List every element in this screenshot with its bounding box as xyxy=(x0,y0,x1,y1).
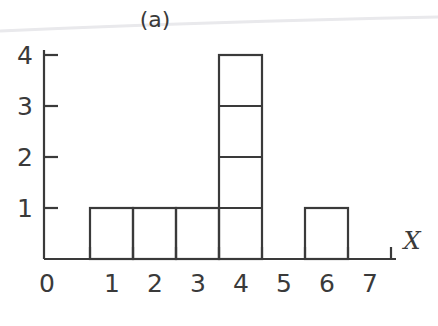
x-axis-name: X xyxy=(401,227,421,255)
x-tick-label-6: 6 xyxy=(319,269,335,298)
bar-x1 xyxy=(90,208,133,259)
x-tick-label-4: 4 xyxy=(233,269,249,298)
x-tick-label-7: 7 xyxy=(362,269,378,298)
x-tick-label-3: 3 xyxy=(190,269,206,298)
scan-artifact-line xyxy=(0,17,438,31)
histogram-svg: (a) 4 3 2 1 0 1 2 3 4 5 6 7 xyxy=(0,0,438,326)
bar-x2 xyxy=(133,208,176,259)
histogram-figure: (a) 4 3 2 1 0 1 2 3 4 5 6 7 xyxy=(0,0,438,326)
x-tick-label-5: 5 xyxy=(276,269,292,298)
x-tick-label-1: 1 xyxy=(104,269,120,298)
y-tick-label-2: 2 xyxy=(17,143,33,172)
y-tick-label-1: 1 xyxy=(17,194,33,223)
bar-x6 xyxy=(305,208,348,259)
figure-title: (a) xyxy=(140,7,171,32)
x-tick-label-2: 2 xyxy=(147,269,163,298)
y-tick-label-4: 4 xyxy=(17,41,33,70)
bar-x3 xyxy=(176,208,219,259)
y-tick-label-3: 3 xyxy=(17,92,33,121)
x-tick-label-0: 0 xyxy=(39,269,55,298)
